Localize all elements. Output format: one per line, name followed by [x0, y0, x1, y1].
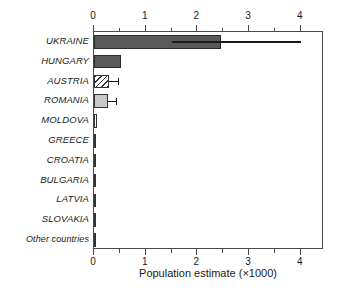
y-axis-label-romania: ROMANIA — [0, 95, 89, 105]
x-tick-label-2: 2 — [184, 10, 208, 21]
y-axis-label-ukraine: UKRAINE — [0, 36, 89, 46]
bar-row — [94, 72, 322, 92]
error-bar-cap — [118, 78, 119, 85]
minor-tick — [171, 28, 172, 32]
minor-tick — [171, 249, 172, 253]
major-tick — [248, 249, 249, 255]
bar-row — [94, 151, 322, 171]
x-tick-label-0: 0 — [81, 256, 105, 267]
bar-greece — [94, 134, 96, 148]
major-tick — [145, 25, 146, 31]
x-tick-label-4: 4 — [288, 10, 312, 21]
error-bar-ukraine — [172, 41, 301, 42]
error-bar-austria — [109, 81, 118, 82]
bar-row — [94, 230, 322, 250]
bar-row — [94, 131, 322, 151]
bar-moldova — [94, 114, 97, 128]
x-tick-label-3: 3 — [236, 10, 260, 21]
bar-row — [94, 191, 322, 211]
major-tick — [93, 249, 94, 255]
x-tick-label-0: 0 — [81, 10, 105, 21]
bar-other-countries — [94, 233, 96, 247]
major-tick — [196, 25, 197, 31]
minor-tick — [222, 249, 223, 253]
minor-tick — [274, 28, 275, 32]
x-tick-label-1: 1 — [133, 256, 157, 267]
bar-row — [94, 111, 322, 131]
y-axis-label-hungary: HUNGARY — [0, 56, 89, 66]
bar-slovakia — [94, 213, 96, 227]
major-tick — [300, 25, 301, 31]
bar-row — [94, 52, 322, 72]
minor-tick — [274, 249, 275, 253]
y-axis-label-bulgaria: BULGARIA — [0, 175, 89, 185]
bar-row — [94, 32, 322, 52]
x-tick-label-4: 4 — [288, 256, 312, 267]
minor-tick — [119, 249, 120, 253]
minor-tick — [119, 28, 120, 32]
y-axis-label-moldova: MOLDOVA — [0, 115, 89, 125]
error-bar-cap — [116, 98, 117, 105]
population-estimate-bar-chart: UKRAINEHUNGARYAUSTRIAROMANIAMOLDOVAGREEC… — [0, 0, 344, 292]
bar-austria — [94, 75, 109, 89]
x-tick-label-1: 1 — [133, 10, 157, 21]
bar-bulgaria — [94, 174, 96, 188]
error-bar-romania — [108, 101, 116, 102]
y-axis-label-slovakia: SLOVAKIA — [0, 214, 89, 224]
bar-row — [94, 91, 322, 111]
y-axis-label-greece: GREECE — [0, 135, 89, 145]
bar-row — [94, 210, 322, 230]
major-tick — [196, 249, 197, 255]
y-axis-label-other-countries: Other countries — [0, 234, 89, 244]
x-tick-label-2: 2 — [184, 256, 208, 267]
bar-hungary — [94, 55, 121, 69]
major-tick — [145, 249, 146, 255]
bar-latvia — [94, 194, 96, 208]
bar-romania — [94, 94, 108, 108]
y-axis-label-croatia: CROATIA — [0, 155, 89, 165]
major-tick — [248, 25, 249, 31]
y-axis-label-austria: AUSTRIA — [0, 76, 89, 86]
y-axis-label-latvia: LATVIA — [0, 194, 89, 204]
minor-tick — [222, 28, 223, 32]
major-tick — [300, 249, 301, 255]
plot-area — [93, 31, 323, 249]
bar-row — [94, 171, 322, 191]
x-axis-title: Population estimate (×1000) — [93, 267, 323, 279]
y-axis-category-labels: UKRAINEHUNGARYAUSTRIAROMANIAMOLDOVAGREEC… — [0, 31, 89, 249]
x-tick-label-3: 3 — [236, 256, 260, 267]
bar-croatia — [94, 154, 96, 168]
major-tick — [93, 25, 94, 31]
